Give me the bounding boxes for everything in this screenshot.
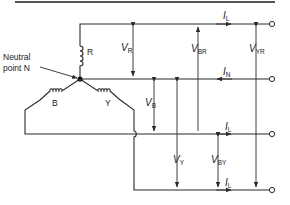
terminal-y[interactable] xyxy=(269,187,274,192)
neutral-pointer-arrow xyxy=(40,67,77,78)
voltage-label-vby: VBY xyxy=(211,154,227,166)
terminal-b[interactable] xyxy=(269,131,274,136)
voltage-label-vyr: VYR xyxy=(249,43,265,55)
phase-label-b: B xyxy=(52,98,58,108)
winding-r-coil xyxy=(80,46,83,79)
line-r-conductor xyxy=(80,21,275,46)
current-label-r: IL xyxy=(223,10,230,22)
neutral-label-line2: point N xyxy=(3,63,30,73)
neutral-conductor xyxy=(80,76,275,81)
phase-label-r: R xyxy=(87,47,93,57)
terminal-r[interactable] xyxy=(269,21,274,26)
winding-b-coil xyxy=(25,79,131,134)
neutral-label-line1: Neutral xyxy=(3,52,31,62)
circuit-diagram: Neutral point N R B Y IL IN IL IL VR VBR… xyxy=(0,0,290,205)
terminal-n[interactable] xyxy=(269,76,274,81)
line-b-conductor xyxy=(131,131,275,136)
current-label-n: IN xyxy=(223,66,231,78)
current-label-b: IL xyxy=(225,121,232,133)
voltage-label-vr: VR xyxy=(121,42,133,54)
voltage-label-vy: VY xyxy=(173,154,185,166)
current-label-y: IL xyxy=(225,177,232,189)
phase-label-y: Y xyxy=(105,98,111,108)
voltage-label-vbr: VBR xyxy=(191,43,207,55)
